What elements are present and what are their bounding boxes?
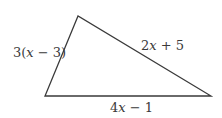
triangle-shape (45, 16, 211, 96)
side-label-bottom: 4x − 1 (110, 100, 153, 115)
triangle-diagram: 3(x − 3) 2x + 5 4x − 1 (0, 0, 222, 118)
side-label-left: 3(x − 3) (13, 45, 66, 60)
side-label-right: 2x + 5 (141, 38, 184, 53)
